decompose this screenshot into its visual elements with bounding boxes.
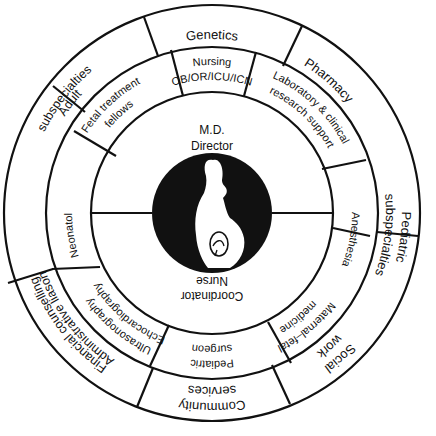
- center-top-label-line1: M.D.: [199, 123, 224, 137]
- organization-wheel-diagram: M.D. Director Coordinator Nurse Communit…: [0, 0, 436, 436]
- middle-label-nursing-line1: OB/OR/ICU/ICN: [170, 70, 254, 88]
- middle-label-anesthesia: Anesthesia: [340, 212, 362, 270]
- outer-label-community-line1: Community: [177, 397, 247, 415]
- center-top-label-line2: Director: [191, 139, 233, 153]
- center-bottom-label-line1: Nurse: [196, 274, 228, 288]
- outer-label-community-line2: services: [186, 382, 237, 399]
- middle-label-pediatric-surgeon-line1: Pediatric: [189, 357, 235, 371]
- outer-label-genetics: Genetics: [185, 27, 240, 44]
- middle-label-nursing-line2: Nursing: [192, 55, 232, 68]
- pregnant-woman-silhouette-icon: [152, 153, 272, 273]
- middle-label-pediatric-surgeon-line2: surgeon: [191, 343, 233, 356]
- center-bottom-label-line2: Coordinator: [181, 289, 244, 303]
